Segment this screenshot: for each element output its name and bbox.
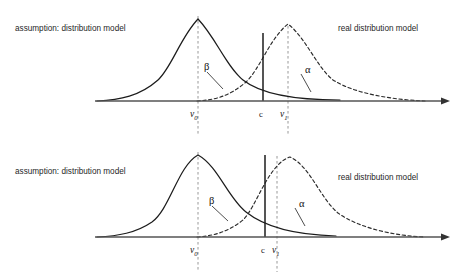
v0-label-bottom: v0 — [190, 245, 198, 257]
assumed-distribution-curve-top — [97, 19, 340, 101]
assumption-caption-top: assumption: distribution model — [15, 24, 126, 33]
real-distribution-caption-bottom: real distribution model — [338, 173, 418, 182]
v1-label-bottom: v1 — [272, 245, 280, 257]
alpha-leader-line-top — [301, 74, 311, 92]
assumption-caption-bottom: assumption: distribution model — [15, 167, 126, 176]
distribution-error-figure: assumption: distribution model real dist… — [0, 0, 466, 272]
assumed-distribution-curve-bottom — [97, 155, 336, 237]
panel-bottom: assumption: distribution model real dist… — [0, 136, 466, 272]
c-label-top: c — [259, 109, 263, 119]
x-axis-arrow-bottom — [441, 233, 450, 240]
v0-label-top: v0 — [190, 109, 198, 121]
alpha-label-bottom: α — [299, 198, 305, 209]
alpha-leader-line-bottom — [295, 208, 305, 226]
panel-top: assumption: distribution model real dist… — [0, 0, 466, 136]
alpha-label-top: α — [305, 64, 311, 75]
c-label-bottom: c — [261, 245, 265, 255]
real-distribution-caption-top: real distribution model — [338, 24, 418, 33]
v1-label-top: v1 — [280, 109, 288, 121]
beta-leader-line-bottom — [212, 206, 228, 221]
beta-label-top: β — [204, 61, 209, 72]
beta-label-bottom: β — [209, 195, 214, 206]
real-distribution-curve-top — [197, 24, 425, 101]
x-axis-arrow-top — [441, 97, 450, 104]
real-distribution-curve-bottom — [197, 157, 424, 237]
beta-leader-line-top — [207, 72, 223, 89]
